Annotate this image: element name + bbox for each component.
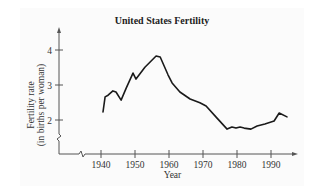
x-tick-label: 1950 — [126, 160, 145, 170]
fertility-rate-line — [103, 56, 287, 129]
y-tick-label: 4 — [47, 46, 52, 56]
y-axis — [57, 27, 61, 154]
y-axis-arrow-icon — [57, 27, 61, 33]
x-tick-label: 1940 — [92, 160, 111, 170]
x-axis — [59, 151, 298, 157]
x-tick-label: 1980 — [228, 160, 247, 170]
y-ticks: 234 — [47, 46, 63, 126]
x-tick-label: 1990 — [262, 160, 281, 170]
plot-area: 234 194019501960197019801990 — [0, 0, 317, 196]
x-tick-label: 1970 — [194, 160, 213, 170]
x-axis-arrow-icon — [292, 152, 298, 156]
x-ticks: 194019501960197019801990 — [92, 150, 281, 170]
x-tick-label: 1960 — [160, 160, 179, 170]
y-tick-label: 3 — [47, 81, 52, 91]
y-tick-label: 2 — [47, 116, 52, 126]
